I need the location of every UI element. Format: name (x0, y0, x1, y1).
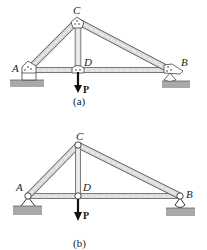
label-c-a: C (73, 4, 81, 16)
arrowhead-icon (74, 212, 82, 221)
ground-b-left (13, 206, 42, 215)
label-c-b: C (76, 130, 84, 142)
truss-a: C A D B P (a) (10, 4, 190, 108)
label-d-a: D (83, 56, 92, 68)
pin-joint-b (177, 193, 183, 199)
label-d-b: D (82, 181, 91, 193)
ground-a-left (10, 80, 44, 87)
arrowhead-icon (74, 85, 82, 93)
gusset-plate-c (71, 17, 84, 28)
ground-b-right (166, 208, 195, 216)
pin-joint-c (75, 142, 81, 148)
label-p-b: P (83, 210, 89, 221)
truss-figure: C A D B P (a) (0, 0, 207, 250)
label-a-a: A (11, 62, 19, 74)
ground-a-right (162, 81, 190, 88)
caption-b: (b) (73, 237, 86, 250)
truss-b: C A D B P (b) (13, 130, 195, 250)
label-a-b: A (15, 181, 23, 193)
label-b-b: B (186, 188, 193, 200)
rocker-support-b (164, 73, 176, 82)
gusset-plate-d (72, 66, 84, 74)
label-p-a: P (83, 84, 89, 95)
pin-joint-a (25, 193, 31, 199)
caption-a: (a) (73, 95, 86, 108)
label-b-a: B (181, 56, 188, 68)
pin-joint-d (75, 193, 81, 199)
